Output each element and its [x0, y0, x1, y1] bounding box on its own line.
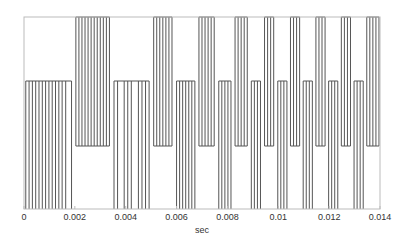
x-tick-label: 0.014 [369, 212, 392, 222]
x-tick-label: 0.01 [270, 212, 288, 222]
x-tick-label: 0.012 [318, 212, 341, 222]
x-axis-label: sec [195, 225, 210, 235]
x-tick-label: 0.002 [64, 212, 87, 222]
x-tick-label: 0.008 [216, 212, 239, 222]
x-axis-ticks: 00.0020.0040.0060.0080.010.0120.014 [21, 206, 391, 222]
pwm-pulses [26, 17, 379, 209]
x-tick-label: 0.006 [165, 212, 188, 222]
x-tick-label: 0.004 [114, 212, 137, 222]
x-tick-label: 0 [21, 212, 26, 222]
pwm-chart: 00.0020.0040.0060.0080.010.0120.014 sec [0, 0, 407, 246]
